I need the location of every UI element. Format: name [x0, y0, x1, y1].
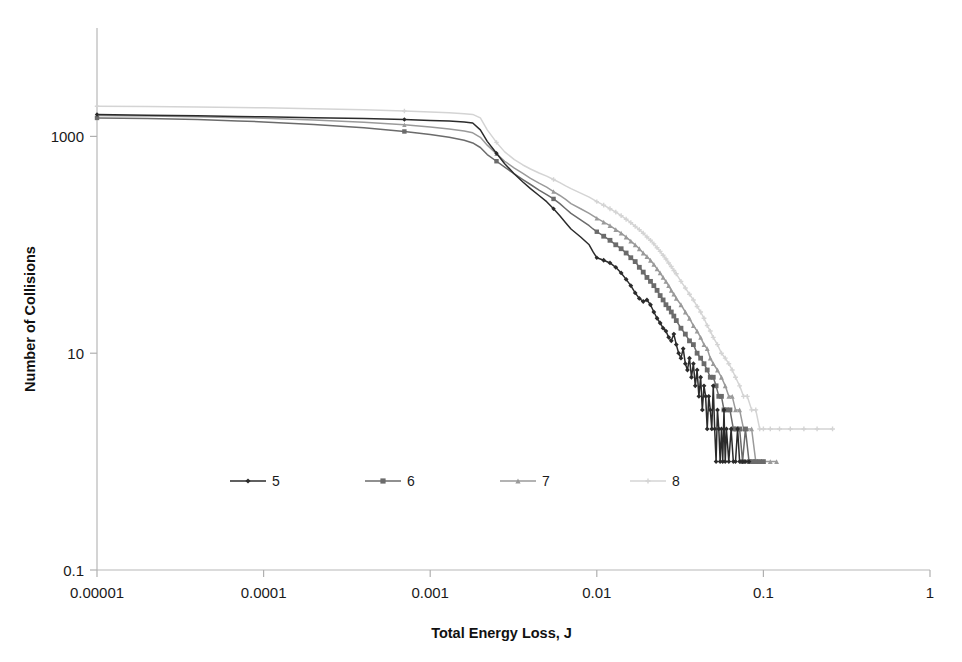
series-7	[95, 113, 779, 464]
y-axis-tick-label: 0.1	[63, 562, 84, 579]
chart-figure: 0.000010.00010.0010.010.110.1101000Total…	[0, 0, 962, 662]
x-axis-tick-label: 0.00001	[70, 584, 124, 601]
legend-label-7: 7	[542, 473, 550, 489]
legend-item-8[interactable]: 8	[630, 473, 680, 489]
y-axis-tick-label: 1000	[51, 128, 84, 145]
x-axis-tick-label: 0.1	[753, 584, 774, 601]
x-axis-tick-label: 0.0001	[241, 584, 287, 601]
chart-canvas: 0.000010.00010.0010.010.110.1101000Total…	[0, 0, 962, 662]
legend-label-8: 8	[672, 473, 680, 489]
x-axis-tick-label: 0.01	[582, 584, 611, 601]
series-6	[95, 116, 766, 464]
legend-label-5: 5	[272, 473, 280, 489]
x-axis-title: Total Energy Loss, J	[431, 625, 572, 641]
series-line-7	[97, 115, 777, 461]
series-line-5	[97, 115, 749, 462]
series-5	[95, 112, 752, 464]
legend-item-7[interactable]: 7	[500, 473, 550, 489]
series-line-6	[97, 118, 763, 462]
legend-item-6[interactable]: 6	[365, 473, 415, 489]
x-axis-tick-label: 1	[926, 584, 934, 601]
legend-item-5[interactable]: 5	[230, 473, 280, 489]
y-axis-title: Number of Collisions	[22, 246, 38, 392]
y-axis-tick-label: 10	[67, 345, 84, 362]
x-axis-tick-label: 0.001	[411, 584, 449, 601]
legend-label-6: 6	[407, 473, 415, 489]
